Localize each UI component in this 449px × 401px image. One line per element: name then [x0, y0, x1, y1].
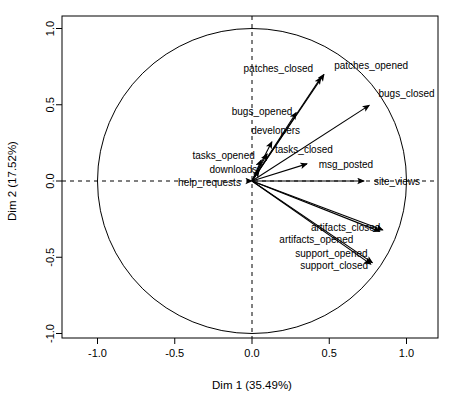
- chart-root: -1.0-0.50.00.51.0-1.0-0.50.00.51.0 patch…: [0, 0, 449, 401]
- y-tick-label: 0.0: [44, 173, 56, 188]
- x-axis-title: Dim 1 (35.49%): [212, 379, 292, 391]
- variable-label: site_views: [374, 176, 420, 187]
- variable-label: support_closed: [300, 260, 368, 271]
- variable-label: help_requests: [178, 177, 241, 188]
- x-tick-label: -0.5: [165, 347, 184, 359]
- variable-label: support_opened: [295, 248, 367, 259]
- y-tick-label: -1.0: [44, 324, 56, 343]
- variable-label: tasks_opened: [193, 150, 255, 161]
- y-tick-label: 1.0: [44, 21, 56, 36]
- x-tick-label: 0.0: [244, 347, 259, 359]
- variable-label: downloads: [209, 164, 257, 175]
- y-tick-label: 0.5: [44, 97, 56, 112]
- correlation-circle-plot: -1.0-0.50.00.51.0-1.0-0.50.00.51.0 patch…: [0, 0, 449, 401]
- variable-label: patches_opened: [334, 60, 408, 71]
- y-axis-title: Dim 2 (17.52%): [6, 141, 18, 221]
- variable-label: msg_posted: [319, 159, 373, 170]
- y-tick-label: -0.5: [44, 248, 56, 267]
- x-tick-label: 1.0: [399, 347, 414, 359]
- variable-label: artifacts_opened: [279, 234, 353, 245]
- x-tick-label: -1.0: [88, 347, 107, 359]
- variable-label: developers: [251, 125, 300, 136]
- variable-label: patches_closed: [244, 63, 314, 74]
- variable-label: bugs_closed: [379, 88, 435, 99]
- variable-label: bugs_opened: [232, 106, 293, 117]
- variable-label: artifacts_closed: [311, 222, 380, 233]
- x-tick-label: 0.5: [322, 347, 337, 359]
- variable-label: tasks_closed: [275, 144, 333, 155]
